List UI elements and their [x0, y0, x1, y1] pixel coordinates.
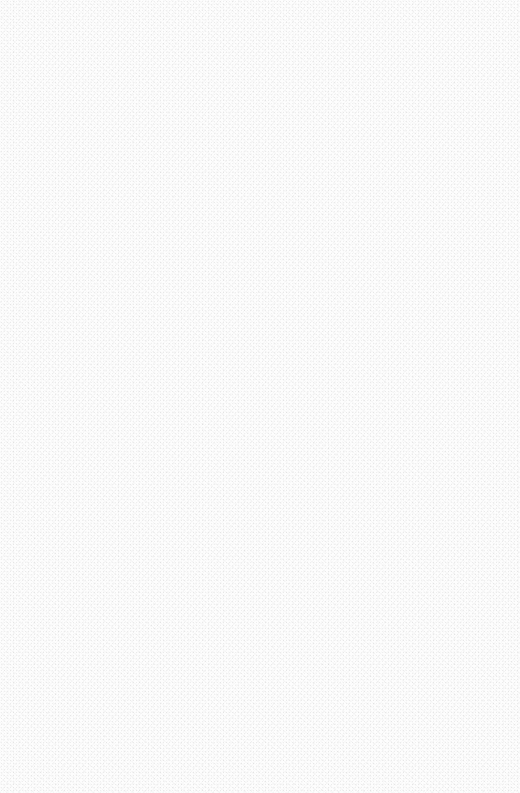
blank-noise-canvas [0, 0, 520, 793]
noise-texture-overlay [0, 0, 520, 793]
